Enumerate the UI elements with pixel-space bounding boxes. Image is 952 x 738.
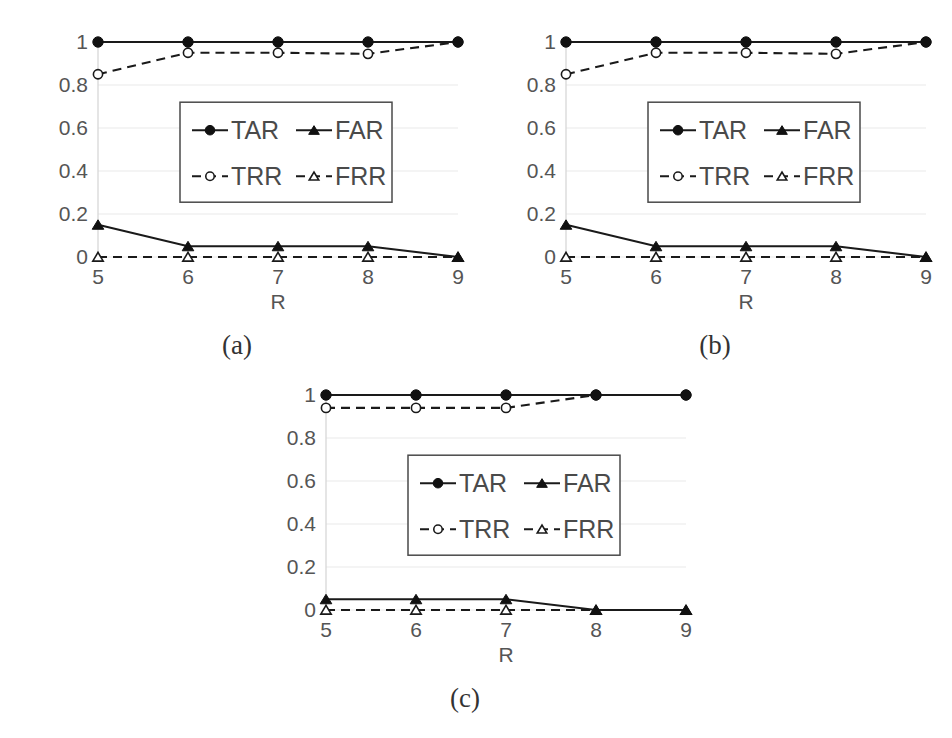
series-trr-marker (93, 70, 102, 79)
chart-legend: TARFARTRRFRR (408, 455, 620, 555)
x-axis-title: R (738, 290, 753, 313)
series-trr-marker (651, 48, 660, 57)
legend-label-tar: TAR (699, 116, 747, 144)
x-axis-tick-labels: 56789 (92, 265, 464, 288)
series-trr-marker (831, 49, 840, 58)
chart-legend: TARFARTRRFRR (180, 102, 392, 202)
y-tick-label: 0.6 (287, 469, 316, 492)
x-axis-title: R (498, 643, 513, 666)
y-tick-label: 1 (304, 383, 316, 406)
series-far-marker (92, 220, 104, 229)
series-tar-marker (273, 37, 283, 47)
legend-label-tar: TAR (459, 469, 507, 497)
x-axis-tick-labels: 56789 (560, 265, 932, 288)
y-tick-label: 0.8 (59, 73, 88, 96)
series-tar-marker (183, 37, 193, 47)
series-trr-marker (741, 48, 750, 57)
legend-label-frr: FRR (803, 162, 854, 190)
series-trr-marker (363, 49, 372, 58)
legend-label-trr: TRR (231, 162, 282, 190)
series-tar-marker (363, 37, 373, 47)
legend-tar-marker (433, 478, 443, 488)
y-tick-label: 0.4 (527, 159, 557, 182)
series-tar-marker (411, 390, 421, 400)
x-tick-label: 9 (920, 265, 932, 288)
series-trr-marker (561, 70, 570, 79)
y-tick-label: 0.4 (59, 159, 89, 182)
chart-panel-c: 00.20.40.60.8156789RTARFARTRRFRR (268, 367, 698, 682)
legend-trr-marker (434, 525, 442, 533)
x-tick-label: 6 (182, 265, 194, 288)
series-tar-marker (831, 37, 841, 47)
legend-tar-marker (205, 125, 215, 135)
y-tick-label: 0 (76, 245, 88, 268)
x-tick-label: 7 (740, 265, 752, 288)
y-tick-label: 1 (76, 30, 88, 53)
chart-svg-c: 00.20.40.60.8156789RTARFARTRRFRR (268, 367, 698, 682)
series-trr-marker (501, 403, 510, 412)
legend-trr-marker (674, 172, 682, 180)
series-tar (93, 37, 463, 47)
legend-label-far: FAR (803, 116, 852, 144)
legend-label-far: FAR (563, 469, 612, 497)
series-tar-marker (501, 390, 511, 400)
series-tar-marker (651, 37, 661, 47)
panel-caption-a: (a) (197, 330, 277, 361)
x-tick-label: 6 (650, 265, 662, 288)
legend-label-far: FAR (335, 116, 384, 144)
y-tick-label: 0.8 (527, 73, 556, 96)
x-tick-label: 7 (500, 618, 512, 641)
legend-label-frr: FRR (563, 515, 614, 543)
y-tick-label: 0.6 (59, 116, 88, 139)
x-axis-tick-labels: 56789 (320, 618, 692, 641)
series-tar-marker (561, 37, 571, 47)
figure-root: 00.20.40.60.8156789RTARFARTRRFRR (a) 00.… (0, 0, 952, 738)
x-tick-label: 8 (362, 265, 374, 288)
series-tar-marker (453, 37, 463, 47)
panel-caption-b: (b) (675, 330, 755, 361)
y-axis-tick-labels: 00.20.40.60.81 (527, 30, 557, 268)
legend-trr-marker (206, 172, 214, 180)
series-far-marker (560, 220, 572, 229)
x-tick-label: 5 (320, 618, 332, 641)
y-tick-label: 0 (544, 245, 556, 268)
x-tick-label: 9 (680, 618, 692, 641)
panel-caption-c: (c) (425, 683, 505, 714)
series-tar (561, 37, 931, 47)
x-tick-label: 5 (560, 265, 572, 288)
x-tick-label: 8 (830, 265, 842, 288)
chart-panel-a: 00.20.40.60.8156789RTARFARTRRFRR (40, 14, 470, 329)
series-tar (321, 390, 691, 400)
x-tick-label: 7 (272, 265, 284, 288)
series-tar-marker (921, 37, 931, 47)
series-tar-marker (741, 37, 751, 47)
x-tick-label: 9 (452, 265, 464, 288)
series-tar-marker (321, 390, 331, 400)
chart-panel-b: 00.20.40.60.8156789RTARFARTRRFRR (508, 14, 938, 329)
y-tick-label: 0.4 (287, 512, 317, 535)
legend-label-trr: TRR (699, 162, 750, 190)
y-tick-label: 0.2 (59, 202, 88, 225)
series-tar-marker (93, 37, 103, 47)
legend-label-trr: TRR (459, 515, 510, 543)
series-tar-marker (681, 390, 691, 400)
y-tick-label: 0.2 (287, 555, 316, 578)
y-axis-tick-labels: 00.20.40.60.81 (287, 383, 317, 621)
chart-svg-a: 00.20.40.60.8156789RTARFARTRRFRR (40, 14, 470, 329)
y-tick-label: 0.6 (527, 116, 556, 139)
series-tar-marker (591, 390, 601, 400)
y-tick-label: 0.8 (287, 426, 316, 449)
x-tick-label: 6 (410, 618, 422, 641)
legend-tar-marker (673, 125, 683, 135)
y-tick-label: 0.2 (527, 202, 556, 225)
chart-svg-b: 00.20.40.60.8156789RTARFARTRRFRR (508, 14, 938, 329)
series-trr-marker (321, 403, 330, 412)
legend-label-frr: FRR (335, 162, 386, 190)
series-trr-marker (273, 48, 282, 57)
x-axis-title: R (270, 290, 285, 313)
series-trr-marker (411, 403, 420, 412)
y-axis-tick-labels: 00.20.40.60.81 (59, 30, 89, 268)
series-trr-marker (183, 48, 192, 57)
x-tick-label: 5 (92, 265, 104, 288)
y-tick-label: 0 (304, 598, 316, 621)
